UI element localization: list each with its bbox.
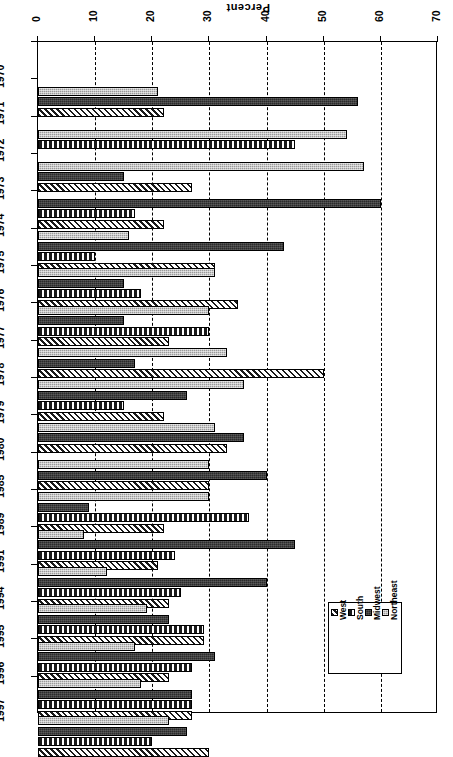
- bar-1980-midwest: [38, 471, 267, 480]
- bar-1980-northeast: [38, 460, 209, 469]
- gridline-50: [324, 42, 325, 712]
- axis-tick-label-40: 40: [259, 10, 271, 22]
- bar-1979-midwest: [38, 433, 244, 442]
- year-label-1995: 1995: [0, 624, 6, 647]
- year-tick-1971: [31, 78, 37, 79]
- bar-1971-south: [38, 140, 295, 149]
- bar-1978-midwest: [38, 391, 187, 400]
- bar-1989-south: [38, 551, 175, 560]
- year-label-1970: 1970: [0, 64, 6, 87]
- year-label-1979: 1979: [0, 400, 6, 423]
- legend-label-south: South: [355, 596, 365, 620]
- year-tick-1972: [31, 116, 37, 117]
- year-tick-1974: [31, 190, 37, 191]
- bar-1974-northeast: [38, 231, 129, 240]
- year-label-1975: 1975: [0, 251, 6, 274]
- bar-1973-midwest: [38, 199, 381, 208]
- bar-1996-midwest: [38, 690, 192, 699]
- year-label-1997: 1997: [0, 699, 6, 722]
- year-tick-1985: [31, 452, 37, 453]
- year-tick-1995: [31, 601, 37, 602]
- year-label-1989: 1989: [0, 512, 6, 535]
- axis-tick-label-60: 60: [373, 10, 385, 22]
- axis-tick-label-70: 70: [430, 10, 442, 22]
- year-tick-1975: [31, 228, 37, 229]
- bar-1972-northeast: [38, 162, 364, 171]
- bar-1975-northeast: [38, 268, 215, 277]
- bar-1985-northeast: [38, 492, 209, 501]
- year-label-1980: 1980: [0, 438, 6, 461]
- year-label-1972: 1972: [0, 139, 6, 162]
- year-label-1973: 1973: [0, 176, 6, 199]
- year-label-1991: 1991: [0, 550, 6, 573]
- bar-1991-south: [38, 588, 181, 597]
- axis-tick-label-10: 10: [87, 10, 99, 22]
- bar-1991-northeast: [38, 567, 107, 576]
- bar-1979-west: [38, 444, 227, 453]
- bar-1970-midwest: [38, 97, 358, 106]
- bar-1972-west: [38, 183, 192, 192]
- legend-label-midwest: Midwest: [372, 586, 382, 620]
- year-label-1971: 1971: [0, 102, 6, 125]
- bar-1989-midwest: [38, 540, 295, 549]
- year-tick-1991: [31, 526, 37, 527]
- year-tick-1970: [31, 41, 37, 42]
- year-tick-1980: [31, 414, 37, 415]
- year-tick-1997: [31, 676, 37, 677]
- year-tick-1973: [31, 153, 37, 154]
- axis-tick-70: [437, 36, 438, 42]
- year-label-1978: 1978: [0, 363, 6, 386]
- bar-1975-south: [38, 289, 141, 298]
- bar-1980-west: [38, 481, 209, 490]
- bar-1976-south: [38, 327, 209, 336]
- bar-1996-south: [38, 700, 192, 709]
- bar-1977-west: [38, 369, 324, 378]
- bar-1994-south: [38, 625, 204, 634]
- legend-swatch-midwest-icon: [365, 609, 372, 616]
- bar-1985-south: [38, 513, 249, 522]
- legend-item-northeast[interactable]: Northeast: [380, 608, 397, 670]
- bar-1973-south: [38, 209, 135, 218]
- year-tick-1989: [31, 489, 37, 490]
- bar-1970-west: [38, 108, 164, 117]
- bar-1971-northeast: [38, 130, 347, 139]
- axis-tick-label-50: 50: [316, 10, 328, 22]
- bar-1995-south: [38, 663, 192, 672]
- bar-1991-midwest: [38, 578, 267, 587]
- bar-1974-midwest: [38, 242, 284, 251]
- year-label-1976: 1976: [0, 288, 6, 311]
- year-label-1994: 1994: [0, 587, 6, 610]
- bar-1994-northeast: [38, 604, 147, 613]
- legend-swatch-south-icon: [348, 609, 355, 616]
- bar-1997-west: [38, 748, 209, 757]
- year-label-1977: 1977: [0, 326, 6, 349]
- legend-label-northeast: Northeast: [389, 580, 399, 620]
- legend-item-midwest[interactable]: Midwest: [363, 608, 380, 670]
- bar-1974-south: [38, 252, 95, 261]
- bar-1995-midwest: [38, 652, 215, 661]
- year-tick-1996: [31, 638, 37, 639]
- bar-1977-northeast: [38, 348, 227, 357]
- bar-1973-west: [38, 220, 164, 229]
- chart-canvas: Percent 010203040506070 NortheastMidwest…: [0, 0, 453, 757]
- bar-1976-midwest: [38, 316, 124, 325]
- year-tick-1976: [31, 265, 37, 266]
- bar-1978-west: [38, 412, 164, 421]
- bar-1997-south: [38, 737, 152, 746]
- legend-item-south[interactable]: South: [346, 608, 363, 670]
- year-label-1996: 1996: [0, 662, 6, 685]
- bar-1989-northeast: [38, 530, 84, 539]
- legend-item-west[interactable]: West: [329, 608, 346, 670]
- chart-legend: NortheastMidwestSouthWest: [328, 602, 402, 674]
- bar-1997-midwest: [38, 727, 187, 736]
- bar-1976-west: [38, 337, 169, 346]
- year-label-1974: 1974: [0, 214, 6, 237]
- bar-1979-northeast: [38, 423, 215, 432]
- year-tick-1979: [31, 377, 37, 378]
- axis-tick-label-20: 20: [144, 10, 156, 22]
- legend-label-west: West: [338, 600, 348, 620]
- bar-1985-midwest: [38, 503, 89, 512]
- axis-tick-label-30: 30: [201, 10, 213, 22]
- year-label-1985: 1985: [0, 475, 6, 498]
- bar-1970-northeast: [38, 87, 158, 96]
